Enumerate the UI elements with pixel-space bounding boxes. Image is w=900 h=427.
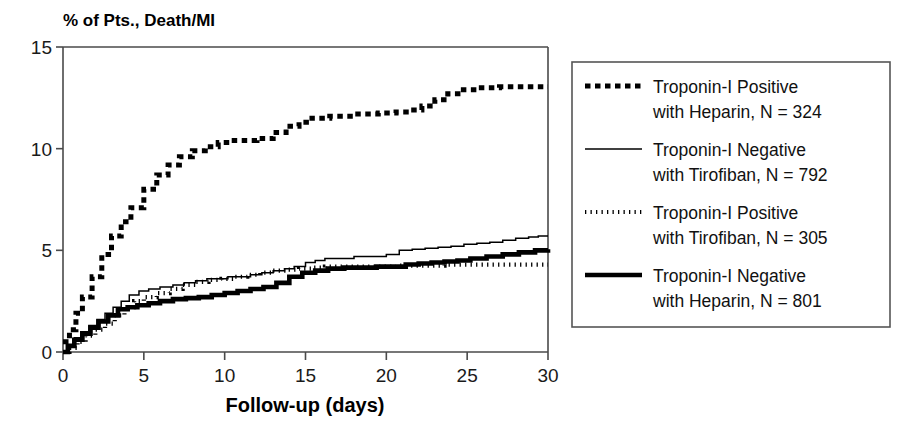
legend-label-3-line2: with Heparin, N = 801 bbox=[652, 291, 822, 311]
legend-label-2-line2: with Tirofiban, N = 305 bbox=[652, 228, 828, 248]
y-tick-label: 10 bbox=[31, 139, 52, 160]
x-tick-label: 0 bbox=[58, 365, 69, 386]
x-tick-label: 10 bbox=[214, 365, 235, 386]
y-tick-label: 5 bbox=[41, 240, 52, 261]
death-mi-cumulative-event-chart: % of Pts., Death/MI 051015051015202530 F… bbox=[0, 0, 900, 427]
chart-legend: Troponin-I Positivewith Heparin, N = 324… bbox=[572, 62, 890, 327]
x-axis-title: Follow-up (days) bbox=[226, 394, 385, 416]
y-tick-label: 0 bbox=[41, 342, 52, 363]
legend-label-3-line1: Troponin-I Negative bbox=[653, 266, 806, 286]
chart-figure: % of Pts., Death/MI 051015051015202530 F… bbox=[0, 0, 900, 427]
x-tick-label: 25 bbox=[457, 365, 478, 386]
legend-label-1-line1: Troponin-I Negative bbox=[653, 140, 806, 160]
x-tick-label: 15 bbox=[295, 365, 316, 386]
legend-label-0-line1: Troponin-I Positive bbox=[653, 77, 798, 97]
x-tick-label: 5 bbox=[139, 365, 150, 386]
y-tick-label: 15 bbox=[31, 37, 52, 58]
legend-label-0-line2: with Heparin, N = 324 bbox=[652, 102, 822, 122]
legend-label-2-line1: Troponin-I Positive bbox=[653, 203, 798, 223]
legend-label-1-line2: with Tirofiban, N = 792 bbox=[652, 165, 828, 185]
x-tick-label: 30 bbox=[537, 365, 558, 386]
x-tick-label: 20 bbox=[376, 365, 397, 386]
chart-title: % of Pts., Death/MI bbox=[63, 11, 215, 30]
